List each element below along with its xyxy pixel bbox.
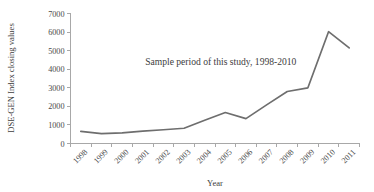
x-tick-label: 2000 — [113, 148, 131, 166]
x-tick-label: 2006 — [236, 148, 254, 166]
x-axis-title: Year — [207, 178, 223, 188]
x-tick-label: 2008 — [278, 148, 296, 166]
x-tick-label: 1998 — [71, 148, 89, 166]
x-axis-ticks — [71, 144, 360, 148]
x-tick-label: 2011 — [340, 148, 358, 166]
x-tick-label: 2005 — [216, 148, 234, 166]
x-tick-label: 2003 — [175, 148, 193, 166]
x-tick-label: 2001 — [133, 148, 151, 166]
y-tick-label: 4000 — [48, 65, 64, 74]
chart-figure: 01000200030004000500060007000 1998199920… — [0, 0, 374, 192]
line-chart: 01000200030004000500060007000 1998199920… — [0, 0, 374, 192]
y-tick-label: 2000 — [48, 102, 64, 111]
y-axis-tick-labels: 01000200030004000500060007000 — [48, 10, 64, 149]
x-tick-label: 2007 — [257, 148, 275, 166]
x-tick-label: 2010 — [319, 148, 337, 166]
series-line-dse-gen — [81, 32, 349, 134]
y-axis-ticks — [67, 14, 71, 144]
x-tick-label: 2009 — [298, 148, 316, 166]
y-tick-label: 5000 — [48, 47, 64, 56]
sample-period-annotation: Sample period of this study, 1998-2010 — [145, 56, 296, 67]
axis-group — [67, 14, 360, 148]
y-tick-label: 1000 — [48, 121, 64, 130]
y-axis-title: DSE-GEN Index closing values — [6, 23, 16, 133]
x-tick-label: 1999 — [92, 148, 110, 166]
y-tick-label: 0 — [60, 140, 64, 149]
x-tick-label: 2004 — [195, 148, 213, 166]
x-axis-tick-labels: 1998199920002001200220032004200520062007… — [71, 148, 357, 166]
x-tick-label: 2002 — [154, 148, 172, 166]
y-tick-label: 6000 — [48, 28, 64, 37]
y-tick-label: 3000 — [48, 84, 64, 93]
y-tick-label: 7000 — [48, 10, 64, 19]
